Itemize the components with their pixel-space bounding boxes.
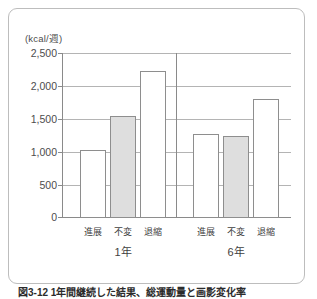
xtick-label-1year-taishuku: 退縮	[144, 225, 162, 238]
bar-6year-taishuku	[253, 99, 279, 218]
y-axis-unit-label: (kcal/週)	[25, 31, 62, 45]
group-label-6year: 6年	[227, 243, 244, 259]
y-tick-label-0: 0	[51, 211, 57, 223]
xtick-label-1year-shinten: 進展	[84, 225, 102, 238]
bar-6year-fuhen	[223, 136, 249, 219]
bar-chart: (kcal/週) 2,500 2,000 1,500 1,000 500	[9, 9, 304, 271]
y-tick-label-1000: 1,000	[31, 146, 57, 158]
bar-1year-shinten	[80, 150, 106, 218]
plot-area: 2,500 2,000 1,500 1,000 500 0	[62, 53, 291, 218]
xtick-label-1year-fuhen: 不変	[114, 225, 132, 238]
y-tick-label-500: 500	[39, 179, 57, 191]
bar-1year-fuhen	[110, 116, 136, 218]
group-divider	[176, 53, 177, 218]
bar-1year-taishuku	[140, 71, 166, 218]
y-tick-label-2000: 2,000	[31, 80, 57, 92]
bar-6year-shinten	[193, 134, 219, 218]
group-label-1year: 1年	[114, 243, 131, 259]
y-tick-label-1500: 1,500	[31, 113, 57, 125]
figure-caption: 図3-12 1年間継続した結果、総運動量と画影変化率	[18, 284, 300, 299]
xtick-label-6year-fuhen: 不変	[227, 225, 245, 238]
y-tick-label-2500: 2,500	[31, 47, 57, 59]
xtick-label-6year-shinten: 進展	[197, 225, 215, 238]
figure-card: (kcal/週) 2,500 2,000 1,500 1,000 500	[8, 8, 305, 284]
y-axis-line	[62, 53, 63, 218]
xtick-label-6year-taishuku: 退縮	[257, 225, 275, 238]
